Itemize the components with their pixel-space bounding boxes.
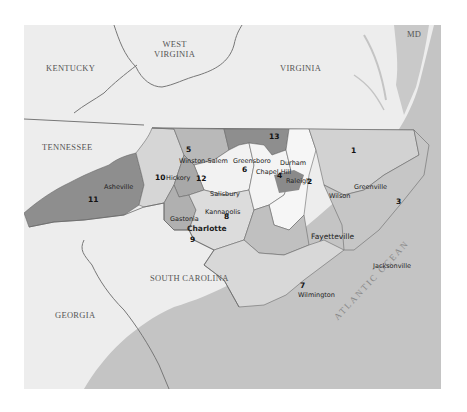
city-label-durham: Durham [280,159,306,167]
state-label-south-carolina: SOUTH CAROLINA [150,273,229,283]
city-label-kannapolis: Kannapolis [205,208,240,216]
city-label-winston-salem: Winston-Salem [179,157,228,165]
city-label-gastonia: Gastonia [170,215,199,223]
district-label-13: 13 [269,132,279,141]
district-label-5: 5 [186,145,191,154]
city-label-wilson: Wilson [329,192,350,200]
map-frame: KENTUCKY WEST VIRGINIA VIRGINIA MD TENNE… [24,25,441,389]
district-label-11: 11 [88,195,98,204]
district-label-10: 10 [155,173,165,182]
city-label-greenville: Greenville [354,183,387,191]
city-label-wilmington: Wilmington [298,291,335,299]
state-label-virginia: VIRGINIA [280,63,321,73]
state-label-md: MD [407,29,421,39]
city-label-raleigh: Raleigh [286,177,310,185]
district-label-6: 6 [242,165,247,174]
city-label-charlotte: Charlotte [187,224,227,233]
city-label-hickory: Hickory [166,174,190,182]
tn-ky-border [24,119,144,125]
state-label-georgia: GEORGIA [55,310,95,320]
state-label-west-virginia-line2: VIRGINIA [154,49,195,59]
city-label-asheville: Asheville [104,183,133,191]
district-label-1: 1 [351,146,356,155]
city-label-greensboro: Greensboro [233,157,271,165]
city-label-jacksonville: Jacksonville [373,262,411,270]
district-label-12: 12 [196,174,206,183]
district-label-9: 9 [190,235,195,244]
state-label-west-virginia-line1: WEST [154,39,195,49]
state-label-tennessee: TENNESSEE [42,142,92,152]
state-label-kentucky: KENTUCKY [46,63,95,73]
city-label-salisbury: Salisbury [210,190,240,198]
state-label-west-virginia: WEST VIRGINIA [154,39,195,59]
district-label-7: 7 [300,281,305,290]
city-label-fayetteville: Fayetteville [311,232,354,241]
map-graphic [24,25,441,389]
district-label-3: 3 [396,197,401,206]
city-label-chapel-hill: Chapel Hill [256,168,291,176]
